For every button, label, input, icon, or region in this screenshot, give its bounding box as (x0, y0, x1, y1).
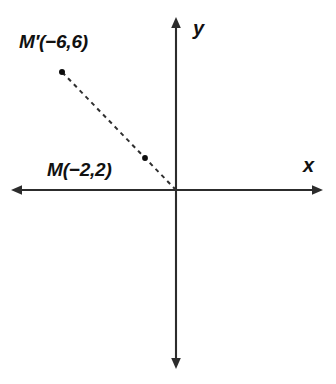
y-axis-top-arrowhead (171, 17, 181, 28)
x-axis-group (11, 185, 323, 195)
x-axis-left-arrowhead (11, 185, 22, 195)
x-axis-right-arrowhead (312, 185, 323, 195)
x-axis-label: x (303, 155, 314, 175)
point-label-m-prime: M′(−6,6) (19, 32, 88, 51)
point-label-m: M(−2,2) (47, 160, 112, 179)
y-axis-bottom-arrowhead (171, 358, 181, 369)
coordinate-plane-figure: M′(−6,6) M(−2,2) y x (0, 0, 336, 384)
y-axis-group (171, 17, 181, 369)
y-axis-label: y (193, 18, 204, 38)
figure-canvas (0, 0, 336, 384)
point-dot-m (142, 155, 148, 161)
point-dot-m-prime (59, 69, 65, 75)
